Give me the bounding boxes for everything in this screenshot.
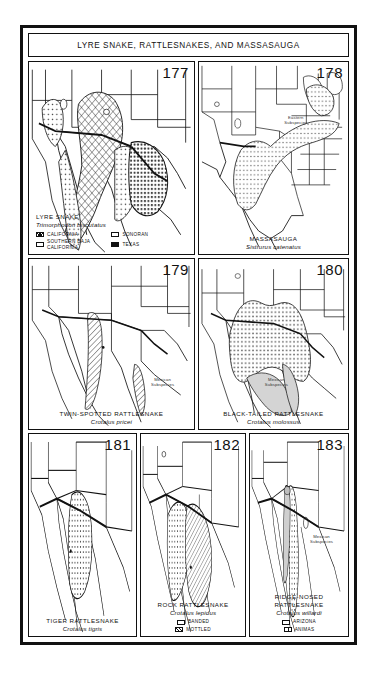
panel-row-1: 177 (28, 61, 349, 255)
panel-number: 181 (105, 436, 132, 453)
legend-label: MOTTLED (186, 627, 211, 633)
panel-caption-179: TWIN-SPOTTED RATTLESNAKE Crotalus pricei (29, 410, 194, 426)
plate-frame: LYRE SNAKE, RATTLESNAKES, AND MASSASAUGA… (20, 25, 357, 645)
legend-item: BANDED (177, 619, 209, 625)
species-common-name: MASSASAUGA (199, 235, 348, 243)
panel-number: 180 (316, 261, 343, 278)
legend-label: SOUTHERN BAJA CALIFORNIA (47, 239, 111, 251)
map-panel-180[interactable]: 180 (198, 258, 349, 430)
page-title: LYRE SNAKE, RATTLESNAKES, AND MASSASAUGA (77, 41, 299, 50)
plate-title-bar: LYRE SNAKE, RATTLESNAKES, AND MASSASAUGA (28, 33, 349, 57)
legend-label: SONORAN (122, 232, 148, 238)
panel-legend-182: BANDED MOTTLED (141, 619, 245, 633)
legend-item: ANIMAS (284, 627, 315, 633)
legend-swatch-dot2-icon (36, 242, 44, 248)
map-panel-178[interactable]: 178 (198, 61, 349, 255)
legend-label: ANIMAS (295, 627, 315, 633)
species-scientific-name: Crotalus pricei (29, 418, 194, 426)
map-panel-177[interactable]: 177 (28, 61, 195, 255)
legend-label: ARIZONA (293, 619, 316, 625)
legend-item: ARIZONA (282, 619, 316, 625)
legend-label: TEXAS (122, 242, 139, 248)
panel-legend-177: CALIFORNIA SONORAN SOUTHERN BAJA CALIFOR… (36, 231, 187, 251)
species-scientific-name: Crotalus lepidus (141, 609, 245, 617)
panel-number: 179 (162, 261, 189, 278)
map-panel-grid: 177 (28, 61, 349, 637)
species-common-name: LYRE SNAKE (36, 213, 187, 221)
map-graphic-black-tailed-rattlesnake (199, 259, 348, 429)
panel-caption-181: TIGER RATTLESNAKE Crotalus tigris (29, 617, 136, 633)
panel-row-2: 179 (28, 258, 349, 430)
map-annotation-mexican-subspecies: Mexican Subspecies (301, 535, 342, 545)
legend-label: CALIFORNIA (47, 232, 78, 238)
legend-swatch-arizona-icon (282, 620, 290, 626)
legend-item: TEXAS (111, 239, 186, 251)
map-graphic-tiger-rattlesnake (29, 434, 136, 636)
map-graphic-massasauga (199, 62, 348, 254)
species-scientific-name: Trimorphodon biscutatus (36, 221, 187, 229)
panel-row-3: 181 (28, 433, 349, 637)
panel-number: 182 (214, 436, 241, 453)
legend-item: SONORAN (111, 232, 186, 238)
panel-caption-178: MASSASAUGA Sistrurus catenatus (199, 235, 348, 251)
panel-caption-183: RIDGE-NOSED RATTLESNAKE Crotalus willard… (250, 593, 348, 633)
panel-number: 177 (162, 64, 189, 81)
species-common-name: BLACK-TAILED RATTLESNAKE (199, 410, 348, 418)
map-annotation-eastern-subspecies: Eastern Subspecies (270, 116, 321, 126)
legend-item: SOUTHERN BAJA CALIFORNIA (36, 239, 111, 251)
map-annotation-mexican-subspecies: Mexican Subspecies (253, 378, 301, 388)
species-common-name: RIDGE-NOSED RATTLESNAKE (250, 593, 348, 609)
legend-swatch-animas-icon (284, 627, 292, 633)
map-annotation-mexican-subspecies: Mexican Subspecies (138, 378, 187, 388)
panel-caption-177: LYRE SNAKE Trimorphodon biscutatus CALIF… (36, 213, 187, 251)
legend-swatch-mottled-icon (175, 627, 183, 633)
panel-number: 183 (316, 436, 343, 453)
legend-item: CALIFORNIA (36, 232, 111, 238)
species-common-name: TIGER RATTLESNAKE (29, 617, 136, 625)
map-graphic-twin-spotted-rattlesnake (29, 259, 194, 429)
map-panel-179[interactable]: 179 (28, 258, 195, 430)
legend-label: BANDED (188, 619, 209, 625)
legend-swatch-banded-icon (177, 620, 185, 626)
panel-caption-182: ROCK RATTLESNAKE Crotalus lepidus BANDED… (141, 601, 245, 633)
map-panel-182[interactable]: 182 (140, 433, 246, 637)
species-scientific-name: Sistrurus catenatus (199, 243, 348, 251)
legend-swatch-dot-icon (111, 232, 119, 238)
panel-legend-183: ARIZONA ANIMAS (250, 619, 348, 633)
species-common-name: TWIN-SPOTTED RATTLESNAKE (29, 410, 194, 418)
species-scientific-name: Crotalus willardi (250, 609, 348, 617)
map-panel-181[interactable]: 181 (28, 433, 137, 637)
map-panel-183[interactable]: 183 (249, 433, 349, 637)
species-scientific-name: Crotalus molossus (199, 418, 348, 426)
species-common-name: ROCK RATTLESNAKE (141, 601, 245, 609)
legend-swatch-dark-icon (111, 242, 119, 248)
legend-item: MOTTLED (175, 627, 211, 633)
panel-number: 178 (316, 64, 343, 81)
legend-swatch-grid-icon (36, 232, 44, 238)
panel-caption-180: BLACK-TAILED RATTLESNAKE Crotalus moloss… (199, 410, 348, 426)
species-scientific-name: Crotalus tigris (29, 625, 136, 633)
